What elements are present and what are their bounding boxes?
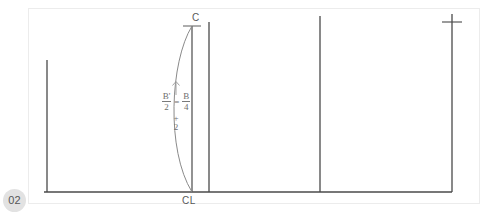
- fraction-b-prime-over-2: B' 2: [162, 92, 172, 113]
- fraction-b-over-4: B 4: [182, 92, 190, 113]
- label-top-station: C: [192, 12, 199, 23]
- addend-value: 2: [174, 123, 179, 132]
- formula-annotation: B' 2 = B 4 + 2: [154, 92, 198, 133]
- diagram-page: C CL B' 2 = B 4 + 2 02: [0, 0, 492, 215]
- fraction-denominator: 4: [184, 102, 189, 112]
- formula-first-row: B' 2 = B 4: [154, 92, 198, 113]
- fraction-numerator: B: [182, 92, 190, 102]
- fraction-numerator: B': [162, 92, 172, 102]
- technical-drawing-canvas: [0, 0, 492, 215]
- fraction-denominator: 2: [164, 102, 169, 112]
- formula-second-row: + 2: [154, 114, 198, 133]
- page-number-badge: 02: [3, 189, 26, 212]
- equals-sign: =: [173, 98, 180, 107]
- label-centerline: CL: [182, 195, 196, 206]
